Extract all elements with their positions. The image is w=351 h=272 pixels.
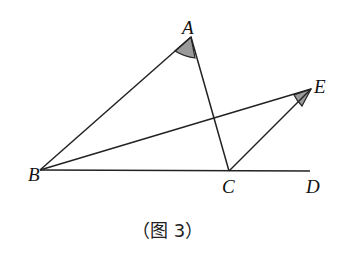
- point-label-d: D: [306, 177, 320, 196]
- segment-ab: [40, 37, 191, 170]
- segment-bd: [40, 170, 310, 171]
- geometry-figure: A B C D E （图 3）: [0, 0, 351, 272]
- point-label-a: A: [182, 18, 194, 37]
- point-label-b: B: [28, 165, 40, 184]
- point-label-e: E: [314, 77, 326, 96]
- figure-caption: （图 3）: [132, 222, 203, 240]
- point-label-c: C: [222, 177, 235, 196]
- segment-ac: [191, 37, 229, 171]
